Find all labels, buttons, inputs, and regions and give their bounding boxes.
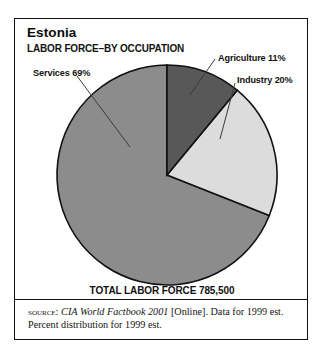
source-rest: [Online]. Data for 1999 est. <box>171 306 284 317</box>
slice-label-industry: Industry 20% <box>237 74 293 85</box>
total-labor-force-label: TOTAL LABOR FORCE 785,500 <box>15 285 308 296</box>
slice-label-services: Services 69% <box>33 67 90 78</box>
source-line-2: Percent distribution for 1999 est. <box>28 319 162 330</box>
slice-label-agriculture: Agriculture 11% <box>218 52 285 63</box>
figure-panel: Estonia LABOR FORCE–BY OCCUPATION Servic… <box>14 18 308 340</box>
source-kicker: SOURCE: <box>28 306 59 317</box>
source-note: SOURCE: CIA World Factbook 2001 [Online]… <box>28 305 300 332</box>
source-publication-title: CIA World Factbook 2001 <box>61 306 168 317</box>
source-divider <box>15 299 308 300</box>
